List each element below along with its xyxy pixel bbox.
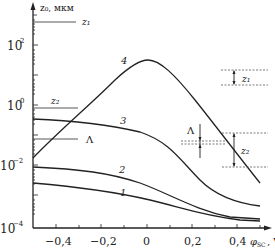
curve-label-2: 2 — [118, 164, 125, 175]
x-tick-label: −0,2 — [90, 235, 117, 248]
x-tick-label: 0,2 — [184, 235, 202, 248]
ref-label-lambda: Λ — [85, 134, 94, 145]
x-axis-arrow-icon — [264, 226, 272, 231]
marker-lambda — [181, 141, 226, 144]
chart: 10 2 10 0 10 −2 10 −4 −0,4 −0,2 0 0,2 0,… — [0, 0, 275, 251]
y-tick-labels: 10 2 10 0 10 −2 10 −4 — [0, 37, 24, 236]
marker-z2-arrow-icon — [233, 133, 236, 167]
marker-label-z2: z₂ — [240, 146, 250, 156]
x-tick-label: −0,4 — [45, 235, 72, 248]
marker-label-z1: z₁ — [241, 74, 250, 84]
y-axis-arrow-icon — [31, 2, 36, 10]
x-tick-labels: −0,4 −0,2 0 0,2 0,4 — [45, 235, 247, 248]
y-axis-title: z₀, мкм — [40, 3, 74, 13]
marker-z1-arrow-icon — [233, 70, 236, 85]
curves — [33, 60, 260, 221]
curve-label-3: 3 — [120, 115, 126, 126]
curve-3 — [33, 119, 260, 206]
y-tick-exp: −4 — [13, 220, 24, 228]
x-axis-title-sub: SC — [257, 241, 266, 248]
ref-label-z2: z₂ — [50, 96, 60, 106]
y-axis — [31, 2, 36, 228]
marker-label-lambda: Λ — [186, 125, 195, 136]
y-tick-exp: 0 — [20, 97, 24, 105]
curve-2 — [33, 167, 260, 219]
y-tick-exp: 2 — [20, 37, 24, 45]
x-axis-title-unit: , V — [267, 236, 275, 247]
x-axis-title-phi: φ — [250, 236, 257, 247]
y-tick-exp: −2 — [13, 157, 23, 165]
curve-label-1: 1 — [120, 187, 126, 198]
x-axis — [33, 226, 272, 231]
x-tick-label: 0,4 — [229, 235, 247, 248]
x-tick-label: 0 — [143, 235, 150, 248]
curve-label-4: 4 — [120, 55, 127, 66]
y-ticks — [33, 15, 38, 214]
curve-1 — [33, 183, 260, 221]
ref-label-z1: z₁ — [81, 17, 90, 27]
